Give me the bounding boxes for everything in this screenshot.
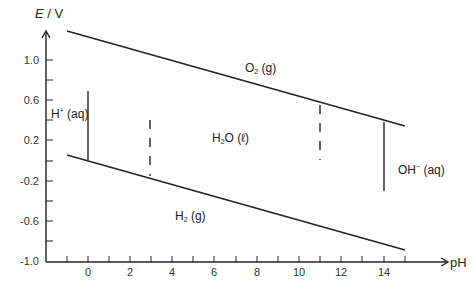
x-tick-label: 10 bbox=[289, 267, 309, 278]
label-h-plus-aq: H+ (aq) bbox=[51, 107, 88, 120]
x-tick-label: 6 bbox=[204, 267, 224, 278]
x-tick-label: 4 bbox=[162, 267, 182, 278]
y-axis-label-symbol: E bbox=[35, 6, 44, 21]
o2-boundary-line bbox=[67, 31, 405, 126]
y-tick-label: -1.0 bbox=[9, 256, 39, 267]
h2-boundary-line bbox=[67, 155, 405, 250]
label-h2o-liquid: H2O (ℓ) bbox=[212, 132, 249, 145]
label-o2-gas: O2 (g) bbox=[245, 62, 276, 75]
x-tick-label: 0 bbox=[78, 267, 98, 278]
x-tick-label: 12 bbox=[331, 267, 351, 278]
y-axis-label-unit: / V bbox=[44, 6, 64, 21]
pourbaix-diagram: E / V pH 1.0 0.6 0.2 -0.2 -0.6 -1.0 0 2 … bbox=[0, 0, 473, 295]
x-tick-label: 14 bbox=[374, 267, 394, 278]
y-tick-label: 0.6 bbox=[9, 95, 39, 106]
y-tick-label: -0.6 bbox=[9, 216, 39, 227]
x-tick-label: 2 bbox=[120, 267, 140, 278]
y-tick-label: -0.2 bbox=[9, 176, 39, 187]
y-tick-label: 0.2 bbox=[9, 135, 39, 146]
y-axis-label: E / V bbox=[35, 7, 63, 20]
x-axis-label: pH bbox=[450, 256, 467, 269]
label-oh-minus-aq: OH− (aq) bbox=[398, 163, 445, 176]
x-tick-label: 8 bbox=[247, 267, 267, 278]
x-ticks bbox=[67, 256, 405, 262]
y-ticks bbox=[46, 60, 53, 241]
y-tick-label: 1.0 bbox=[9, 55, 39, 66]
label-h2-gas: H2 (g) bbox=[175, 210, 206, 223]
diagram-canvas bbox=[0, 0, 473, 295]
